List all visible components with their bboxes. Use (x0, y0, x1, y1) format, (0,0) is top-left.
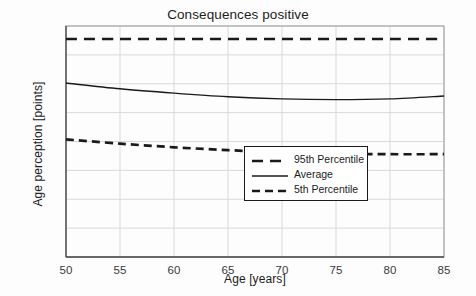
legend-label: 5th Percentile (294, 183, 358, 195)
x-tick-label: 55 (100, 264, 140, 276)
x-tick-label: 85 (424, 264, 464, 276)
x-tick-label: 60 (154, 264, 194, 276)
legend-label: 95th Percentile (294, 153, 364, 165)
legend-label: Average (294, 168, 333, 180)
x-tick-label: 80 (370, 264, 410, 276)
x-tick-label: 75 (316, 264, 356, 276)
legend-swatch-dashed-icon (251, 153, 289, 165)
y-axis-title: Age perception [points] (31, 44, 45, 244)
chart-canvas (66, 26, 444, 257)
legend-swatch-solid-icon (251, 168, 289, 180)
series-line-2 (66, 83, 444, 100)
chart-legend[interactable]: 95th Percentile Average 5th Percentile (244, 146, 368, 201)
chart-figure: Consequences positive Age perception [po… (0, 0, 476, 296)
plot-area: 0246810121416 5055606570758085 (66, 26, 444, 257)
chart-title: Consequences positive (0, 7, 476, 22)
x-tick-label: 65 (208, 264, 248, 276)
legend-item[interactable]: Average (245, 166, 367, 181)
x-tick-label: 70 (262, 264, 302, 276)
legend-item[interactable]: 5th Percentile (245, 181, 367, 196)
x-tick-label: 50 (46, 264, 86, 276)
legend-item[interactable]: 95th Percentile (245, 151, 367, 166)
legend-swatch-dashed-icon (251, 183, 289, 195)
